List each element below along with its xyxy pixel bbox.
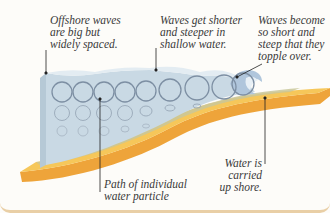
label-particle-path: Path of individual water particle xyxy=(104,178,187,202)
label-shallow-water: Waves get shorter and steeper in shallow… xyxy=(160,14,242,50)
label-waves-topple: Waves become so short and steep that the… xyxy=(258,14,325,62)
label-offshore-waves: Offshore waves are big but widely spaced… xyxy=(50,14,121,50)
label-water-carried: Water is carried up shore. xyxy=(188,157,262,193)
wave-diagram: Offshore waves are big but widely spaced… xyxy=(0,0,330,213)
